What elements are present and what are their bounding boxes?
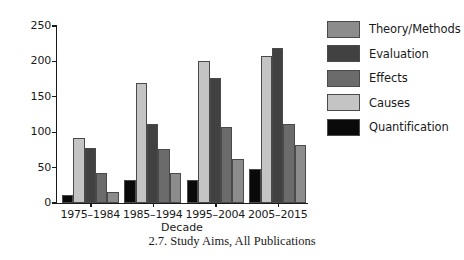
x-tick-label: 2005–2015 (247, 208, 309, 221)
y-tick-mark (52, 61, 56, 62)
legend-label: Effects (369, 71, 408, 85)
y-tick-mark (52, 167, 56, 168)
bar (210, 78, 221, 203)
y-tick-label: 50 (37, 161, 51, 174)
bar (96, 173, 107, 203)
legend-label: Evaluation (369, 47, 429, 61)
bar (295, 145, 306, 203)
legend-label: Causes (369, 96, 410, 110)
bar (187, 180, 198, 203)
x-tick-mark (90, 203, 91, 207)
bar (221, 127, 232, 203)
legend-swatch (327, 119, 360, 136)
bar (147, 124, 158, 203)
bar (261, 56, 272, 203)
y-tick-label: 0 (44, 196, 51, 209)
y-tick-mark (52, 202, 56, 203)
bar (73, 138, 84, 203)
y-tick-mark (52, 96, 56, 97)
plot-area (57, 26, 307, 203)
legend-label: Quantification (369, 120, 449, 134)
y-tick-mark (52, 25, 56, 26)
x-axis-title: Decade (57, 221, 307, 234)
legend-item: Theory/Methods (327, 17, 462, 42)
bar (158, 149, 169, 203)
legend-swatch (327, 70, 360, 87)
bar (170, 173, 181, 203)
bar (136, 83, 147, 203)
y-tick-mark (52, 132, 56, 133)
bar (272, 48, 283, 203)
y-tick-label: 100 (31, 125, 51, 138)
bar (232, 159, 243, 203)
bar (62, 195, 73, 203)
legend-label: Theory/Methods (369, 22, 461, 36)
legend-item: Effects (327, 66, 462, 91)
x-tick-mark (153, 203, 154, 207)
bar-group (124, 26, 181, 203)
figure-caption: 2.7. Study Aims, All Publications (0, 234, 464, 249)
legend-item: Evaluation (327, 42, 462, 67)
legend-item: Quantification (327, 115, 462, 140)
legend-swatch (327, 94, 360, 111)
legend: Theory/MethodsEvaluationEffectsCausesQua… (327, 17, 462, 140)
bar (198, 61, 209, 203)
bar (249, 169, 260, 203)
x-tick-label: 1975–1984 (59, 208, 121, 221)
x-tick-mark (215, 203, 216, 207)
bar (124, 180, 135, 203)
x-axis-line (56, 203, 308, 204)
y-tick-label: 150 (31, 90, 51, 103)
x-tick-label: 1985–1994 (122, 208, 184, 221)
legend-item: Causes (327, 91, 462, 116)
figure-study-aims: Publications 050100150200250 1975–198419… (0, 0, 464, 260)
y-tick-label: 250 (31, 19, 51, 32)
bar (283, 124, 294, 203)
y-tick-label: 200 (31, 54, 51, 67)
bar (107, 192, 118, 203)
x-tick-label: 1995–2004 (184, 208, 246, 221)
legend-swatch (327, 45, 360, 62)
legend-swatch (327, 21, 360, 38)
bar-group (187, 26, 244, 203)
bar (85, 148, 96, 203)
bar-group (249, 26, 306, 203)
bar-group (62, 26, 119, 203)
x-tick-mark (278, 203, 279, 207)
